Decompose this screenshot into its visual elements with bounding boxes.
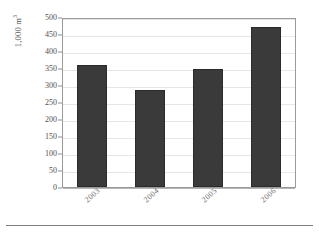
- bar-2006: [251, 27, 281, 187]
- x-tick-slot: 2003: [62, 188, 121, 222]
- y-tick-label: 150: [31, 133, 57, 141]
- x-tick-label-2004: 2004: [142, 186, 161, 204]
- bar-slot: [179, 19, 237, 187]
- y-axis-tick-labels: 500450400350300250200150100500: [28, 18, 57, 188]
- x-tick-slot: 2006: [238, 188, 297, 222]
- bar-2005: [193, 69, 223, 187]
- bar-2004: [135, 90, 165, 187]
- y-axis-title: 1,000 m3: [12, 0, 26, 76]
- y-tick-label: 500: [31, 14, 57, 22]
- x-tick-slot: 2005: [179, 188, 238, 222]
- y-axis-title-text: 1,000 m: [13, 18, 23, 47]
- bar-slot: [63, 19, 121, 187]
- bar-2003: [77, 65, 107, 187]
- y-tick-label: 450: [31, 31, 57, 39]
- x-tick-label-2006: 2006: [259, 186, 278, 204]
- y-tick-label: 400: [31, 48, 57, 56]
- y-tick-label: 50: [31, 167, 57, 175]
- bar-slot: [237, 19, 295, 187]
- y-tick-label: 200: [31, 116, 57, 124]
- x-tick-slot: 2004: [121, 188, 180, 222]
- x-tick-label-2003: 2003: [83, 186, 102, 204]
- bar-chart-figure: 1,000 m3 500450400350300250200150100500 …: [0, 0, 319, 234]
- bar-slot: [121, 19, 179, 187]
- plot-area: [62, 18, 296, 188]
- y-tick-label: 100: [31, 150, 57, 158]
- y-tick-label: 350: [31, 65, 57, 73]
- y-tick-label: 250: [31, 99, 57, 107]
- x-axis-tick-labels: 2003200420052006: [62, 188, 296, 222]
- y-tick-label: 0: [31, 184, 57, 192]
- bar-series: [63, 19, 295, 187]
- bottom-divider: [6, 225, 313, 226]
- y-axis-title-exponent: 3: [12, 15, 18, 18]
- x-tick-label-2005: 2005: [200, 186, 219, 204]
- y-tick-label: 300: [31, 82, 57, 90]
